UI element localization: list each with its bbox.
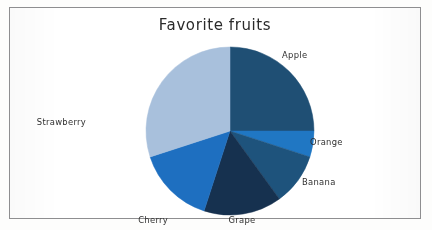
pie-label-banana: Banana <box>302 177 336 187</box>
pie-slice-group <box>146 47 314 215</box>
pie-label-strawberry: Strawberry <box>37 117 86 127</box>
chart-frame: Favorite fruits AppleOrangeBananaGrapeCh… <box>9 7 421 219</box>
chart-page: Favorite fruits AppleOrangeBananaGrapeCh… <box>0 0 432 230</box>
pie-label-orange: Orange <box>310 137 343 147</box>
pie-label-cherry: Cherry <box>138 215 168 225</box>
pie-label-grape: Grape <box>228 215 255 225</box>
pie-label-apple: Apple <box>282 50 307 60</box>
pie-chart: Favorite fruits AppleOrangeBananaGrapeCh… <box>10 8 420 218</box>
pie-svg: AppleOrangeBananaGrapeCherryStrawberry <box>10 8 432 230</box>
